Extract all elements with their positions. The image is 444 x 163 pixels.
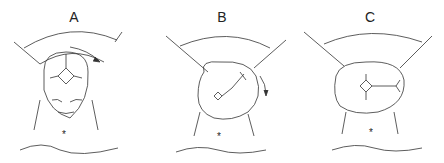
asterisk-b: * — [217, 131, 221, 142]
panel-b-drawing: * — [148, 0, 296, 163]
asterisk-a: * — [62, 129, 66, 140]
panel-c: C * — [296, 0, 444, 163]
asterisk-c: * — [369, 127, 373, 138]
panel-a: A * — [0, 0, 148, 163]
panel-b: B * — [148, 0, 296, 163]
panel-c-drawing: * — [296, 0, 444, 163]
panel-a-drawing: * — [0, 0, 148, 163]
